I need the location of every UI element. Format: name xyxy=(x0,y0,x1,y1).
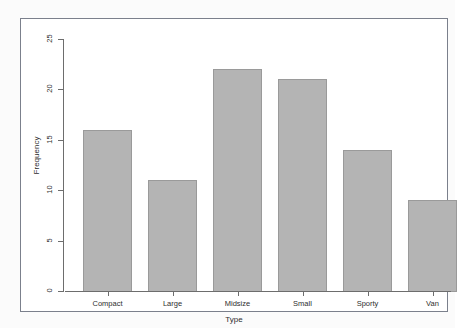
y-axis-tick-label: 10 xyxy=(45,180,54,200)
bar xyxy=(213,69,262,292)
plot-area: 0510152025 CompactLargeMidsizeSmallSport… xyxy=(21,19,447,311)
y-axis-title-wrapper: Frequency xyxy=(29,19,43,313)
bar xyxy=(148,180,197,292)
y-axis-tick-label: 5 xyxy=(45,230,54,250)
x-axis-tick xyxy=(173,291,174,296)
y-axis-tick xyxy=(58,140,63,141)
y-axis-tick-label: 20 xyxy=(45,79,54,99)
y-axis-tick-label: 15 xyxy=(45,129,54,149)
bar xyxy=(343,150,392,292)
y-axis-title: Frequency xyxy=(32,123,41,189)
y-axis-tick xyxy=(58,291,63,292)
plot-frame: 0510152025 CompactLargeMidsizeSmallSport… xyxy=(20,18,448,312)
bar xyxy=(408,200,457,292)
x-axis-tick xyxy=(108,291,109,296)
y-axis-tick-label: 0 xyxy=(45,281,54,301)
y-axis-tick xyxy=(58,190,63,191)
y-axis-tick xyxy=(58,241,63,242)
x-axis-title: Type xyxy=(21,315,447,324)
x-axis-tick-label: Van xyxy=(393,299,461,308)
x-axis-tick xyxy=(433,291,434,296)
x-axis-tick xyxy=(303,291,304,296)
y-axis-tick-label: 25 xyxy=(45,29,54,49)
bar xyxy=(278,79,327,292)
y-axis-tick xyxy=(58,89,63,90)
bar xyxy=(83,130,132,292)
y-axis-tick xyxy=(58,39,63,40)
x-axis-tick xyxy=(238,291,239,296)
x-axis-tick xyxy=(368,291,369,296)
x-axis-line xyxy=(65,291,451,292)
y-axis-line xyxy=(63,39,64,292)
